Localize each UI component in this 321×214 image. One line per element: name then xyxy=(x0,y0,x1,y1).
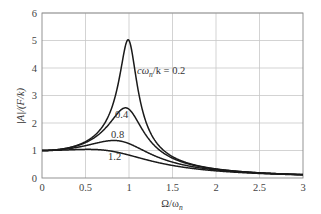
annotation-0.4: 0.4 xyxy=(115,109,129,120)
x-tick-label: 0 xyxy=(39,182,44,193)
annotation-1.2: 1.2 xyxy=(108,151,121,162)
y-tick-label: 4 xyxy=(32,63,38,74)
y-tick-label: 3 xyxy=(32,90,37,101)
y-tick-labels: 0123456 xyxy=(32,8,38,184)
x-axis-label-sub: n xyxy=(179,203,183,212)
y-axis-label: |A|/(F/k) xyxy=(15,87,27,124)
y-tick-label: 1 xyxy=(32,145,37,156)
x-tick-label: 0.5 xyxy=(79,182,92,193)
x-tick-label: 1.5 xyxy=(166,182,179,193)
annotation-0.2-rest: /k = 0.2 xyxy=(153,65,185,76)
y-tick-label: 0 xyxy=(32,173,37,184)
y-tick-label: 6 xyxy=(32,8,37,19)
x-tick-labels: 00.511.522.53 xyxy=(39,182,305,193)
grid-lines xyxy=(42,13,303,178)
x-tick-label: 2 xyxy=(213,182,218,193)
annotation-0.8: 0.8 xyxy=(111,129,124,140)
x-tick-label: 2.5 xyxy=(253,182,266,193)
x-axis-label-main: Ω/ω xyxy=(161,198,179,209)
x-tick-label: 3 xyxy=(300,182,305,193)
x-tick-label: 1 xyxy=(126,182,131,193)
annotation-0.2-main: cω xyxy=(137,65,149,76)
resonance-chart: 00.511.522.53 0123456 |A|/(F/k) Ω/ωn cωn… xyxy=(0,0,321,214)
y-tick-label: 2 xyxy=(32,118,37,129)
y-tick-label: 5 xyxy=(32,35,37,46)
x-axis-label: Ω/ωn xyxy=(161,198,183,212)
annotation-0.2: cωn/k = 0.2 xyxy=(137,65,185,79)
